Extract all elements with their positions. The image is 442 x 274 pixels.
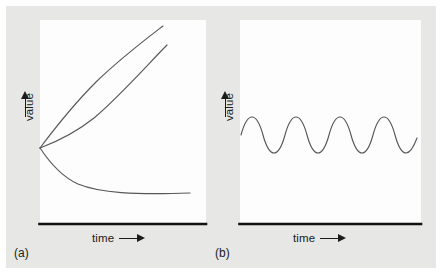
x-axis-rule-a	[38, 220, 208, 228]
y-axis-label-b: value	[221, 70, 235, 144]
plot-area-b	[240, 20, 421, 225]
curve-decaying	[40, 148, 190, 194]
arrow-right-icon-a	[119, 234, 145, 243]
x-axis-rule-b	[238, 220, 423, 228]
plot-area-a	[40, 20, 206, 225]
panel-a: value time (a)	[0, 0, 221, 274]
panel-caption-b: (b)	[215, 246, 230, 260]
curve-divergent-lower	[40, 45, 167, 148]
x-axis-label-text-a: time	[92, 232, 114, 244]
arrow-right-icon-b	[320, 234, 346, 243]
x-axis-label-a: time	[92, 232, 145, 244]
arrow-up-icon-a	[21, 92, 24, 118]
arrow-up-icon-b	[221, 92, 224, 118]
curve-divergent-upper	[40, 26, 163, 148]
panel-b: value time (b)	[221, 0, 442, 274]
curve-oscillation	[241, 117, 417, 153]
x-axis-label-b: time	[293, 232, 346, 244]
figure-root: value time (a) value	[0, 0, 442, 274]
y-axis-label-a: value	[21, 70, 35, 144]
panel-caption-a: (a)	[14, 246, 29, 260]
x-axis-label-text-b: time	[293, 232, 315, 244]
plot-curves-a	[40, 20, 206, 225]
plot-curves-b	[240, 20, 421, 225]
